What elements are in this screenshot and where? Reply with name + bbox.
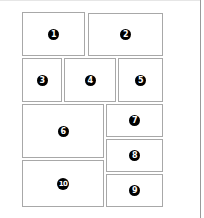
number-badge-9: 9	[129, 185, 140, 196]
layout-box-1: 1	[22, 12, 85, 56]
number-badge-10: 10	[57, 178, 69, 190]
number-badge-1: 1	[48, 29, 59, 40]
number-badge-7: 7	[129, 115, 140, 126]
number-badge-6: 6	[58, 126, 69, 137]
layout-box-9: 9	[106, 174, 163, 207]
number-badge-2: 2	[120, 29, 131, 40]
layout-box-4: 4	[64, 58, 116, 102]
layout-box-2: 2	[88, 13, 163, 56]
number-badge-3: 3	[37, 75, 48, 86]
layout-box-6: 6	[22, 104, 104, 158]
layout-box-10: 10	[22, 160, 104, 207]
number-badge-8: 8	[129, 150, 140, 161]
layout-box-5: 5	[118, 58, 163, 102]
layout-box-7: 7	[106, 104, 163, 137]
layout-box-8: 8	[106, 139, 163, 172]
page-right-edge	[200, 0, 201, 218]
number-badge-5: 5	[135, 75, 146, 86]
layout-box-3: 3	[22, 58, 62, 102]
number-badge-4: 4	[85, 75, 96, 86]
page-top-edge	[0, 0, 201, 1]
